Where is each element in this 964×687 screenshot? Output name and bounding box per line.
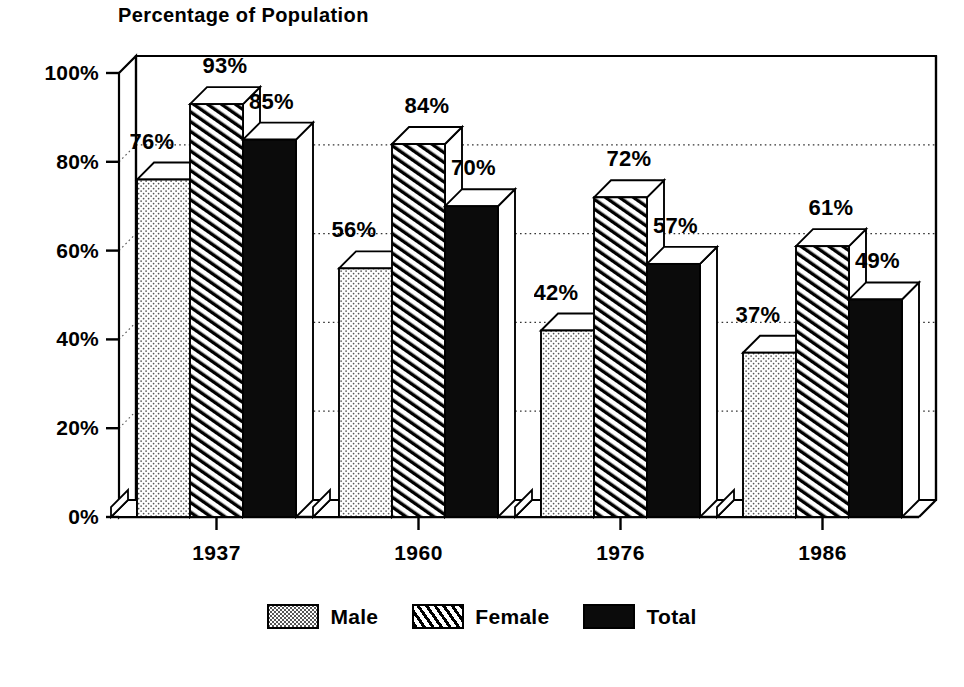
data-label: 42%: [534, 280, 595, 306]
data-label: 76%: [130, 129, 191, 155]
bar-chart-canvas: [0, 0, 964, 687]
data-label: 84%: [405, 93, 450, 119]
chart-legend: Male Female Total: [0, 604, 964, 629]
data-label: 57%: [653, 213, 698, 239]
legend-item-male[interactable]: Male: [267, 604, 378, 629]
legend-item-total[interactable]: Total: [583, 604, 696, 629]
y-axis-tick-label: 40%: [0, 327, 99, 351]
legend-swatch-male-icon: [267, 604, 319, 629]
legend-label-female: Female: [475, 605, 549, 629]
x-axis-tick-label: 1976: [596, 541, 645, 565]
legend-label-male: Male: [330, 605, 378, 629]
y-axis-tick-label: 0%: [0, 505, 99, 529]
legend-item-female[interactable]: Female: [412, 604, 549, 629]
data-label: 61%: [809, 195, 854, 221]
y-axis-tick-label: 80%: [0, 150, 99, 174]
bar-group-container: [111, 87, 919, 517]
y-axis-tick-label: 20%: [0, 416, 99, 440]
x-axis-tick-label: 1960: [394, 541, 443, 565]
legend-swatch-female-icon: [412, 604, 464, 629]
x-axis-tick-label: 1986: [798, 541, 847, 565]
data-label: 49%: [855, 248, 900, 274]
data-label: 56%: [332, 217, 393, 243]
y-axis-tick-label: 60%: [0, 239, 99, 263]
data-label: 37%: [736, 302, 797, 328]
x-axis-tick-label: 1937: [192, 541, 241, 565]
data-label: 70%: [451, 155, 496, 181]
data-label: 85%: [249, 89, 294, 115]
data-label: 72%: [607, 146, 652, 172]
data-label: 93%: [203, 53, 248, 79]
legend-swatch-total-icon: [583, 604, 635, 629]
legend-label-total: Total: [646, 605, 696, 629]
y-axis-tick-label: 100%: [0, 61, 99, 85]
